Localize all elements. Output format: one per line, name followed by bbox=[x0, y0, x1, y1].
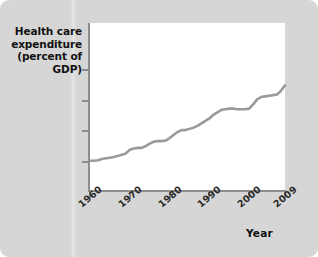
y-tick-20% bbox=[82, 69, 88, 71]
chart-figure: Health care expenditure (percent of GDP)… bbox=[0, 0, 318, 257]
y-tick-10 bbox=[82, 130, 88, 132]
series-line-health-expenditure bbox=[90, 85, 285, 160]
y-tick-5 bbox=[82, 161, 88, 163]
data-series-layer bbox=[0, 0, 318, 257]
y-tick-15 bbox=[82, 100, 88, 102]
